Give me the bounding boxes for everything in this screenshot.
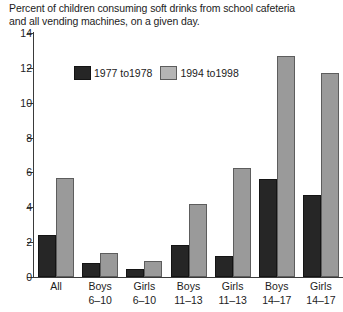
x-axis-label-line: 6–10: [122, 294, 166, 308]
bar: [189, 204, 207, 277]
x-axis-label-line: 14–17: [299, 294, 343, 308]
bar: [321, 73, 339, 277]
bar: [56, 178, 74, 277]
bar: [171, 245, 189, 277]
bar-chart: Percent of children consuming soft drink…: [0, 0, 343, 312]
bar: [215, 256, 233, 277]
x-axis-label-line: Girls: [299, 280, 343, 294]
y-axis-tick-label: 10: [0, 97, 32, 109]
bar-group: [215, 33, 251, 277]
bar: [277, 56, 295, 277]
x-axis-label: Boys14–17: [255, 280, 299, 307]
x-axis-label-line: 14–17: [255, 294, 299, 308]
bar-group: [126, 33, 162, 277]
bar: [82, 263, 100, 277]
x-axis-label-line: Girls: [211, 280, 255, 294]
chart-title-line-1: Percent of children consuming soft drink…: [9, 2, 337, 15]
y-axis-tick-label: 2: [0, 236, 32, 248]
y-axis-tick-label: 4: [0, 201, 32, 213]
bar: [144, 261, 162, 277]
x-axis-label-line: Boys: [78, 280, 122, 294]
x-axis-label: All: [34, 280, 78, 294]
plot-area: [34, 33, 343, 277]
chart-title: Percent of children consuming soft drink…: [9, 2, 337, 27]
x-axis-labels: AllBoys6–10Girls6–10Boys11–13Girls11–13B…: [34, 280, 343, 312]
bar: [126, 269, 144, 277]
bar: [259, 179, 277, 277]
bar: [303, 195, 321, 277]
x-axis-label: Girls6–10: [122, 280, 166, 307]
y-axis-tick-label: 6: [0, 166, 32, 178]
y-axis-tick-label: 12: [0, 62, 32, 74]
x-axis-label-line: Girls: [122, 280, 166, 294]
chart-title-line-2: and all vending machines, on a given day…: [9, 15, 337, 28]
x-axis-label-line: Boys: [166, 280, 210, 294]
x-axis-label-line: 6–10: [78, 294, 122, 308]
bar-group: [303, 33, 339, 277]
bar-group: [259, 33, 295, 277]
x-axis-label: Girls11–13: [211, 280, 255, 307]
y-axis-tick-label: 14: [0, 27, 32, 39]
x-axis-label-line: 11–13: [166, 294, 210, 308]
x-axis-label-line: 11–13: [211, 294, 255, 308]
bar-group: [38, 33, 74, 277]
bar-group: [171, 33, 207, 277]
x-axis-label: Boys11–13: [166, 280, 210, 307]
x-axis-label: Boys6–10: [78, 280, 122, 307]
x-axis-label: Girls14–17: [299, 280, 343, 307]
bar: [38, 235, 56, 277]
y-axis-tick-label: 0: [0, 271, 32, 283]
bar-group: [82, 33, 118, 277]
y-axis-tick-label: 8: [0, 132, 32, 144]
x-axis-line: [33, 277, 343, 278]
bar: [100, 253, 118, 277]
x-axis-label-line: Boys: [255, 280, 299, 294]
bar: [233, 168, 251, 277]
x-axis-label-line: All: [34, 280, 78, 294]
